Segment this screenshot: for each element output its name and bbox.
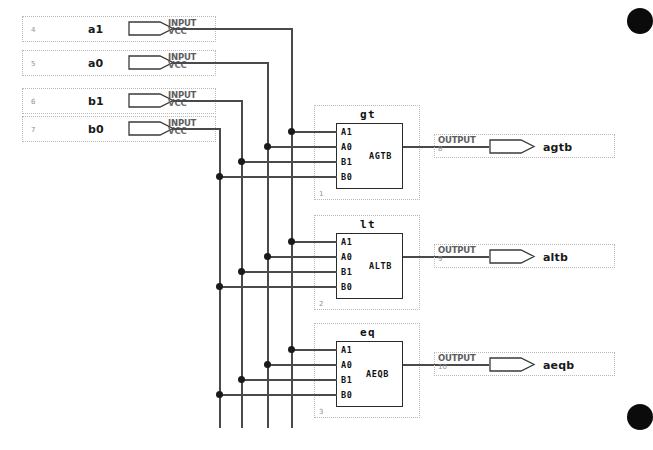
wire-gt-b0 — [219, 176, 337, 178]
edge-marker-bottom — [627, 404, 653, 430]
block-title-lt: lt — [360, 218, 376, 231]
block-port-gt-out: AGTB — [369, 151, 392, 161]
wire-lt-a0 — [267, 256, 337, 258]
block-instance-number-gt: 1 — [319, 190, 323, 198]
wire-eq-a0 — [267, 364, 337, 366]
block-port-gt-b1: B1 — [341, 157, 352, 167]
output-signal-label-altb: altb — [543, 251, 568, 264]
block-port-gt-a1: A1 — [341, 127, 352, 137]
output-pin-symbol-aeqb[interactable] — [489, 357, 535, 372]
output-pin-type-agtb: OUTPUT — [438, 136, 476, 145]
block-port-eq-out: AEQB — [366, 369, 389, 379]
junction-gt-b0 — [216, 173, 223, 180]
input-pin-number-a1: 4 — [31, 26, 35, 34]
wire-lt-b1 — [241, 271, 337, 273]
wire-eq-b0 — [219, 394, 337, 396]
output-pin-symbol-agtb[interactable] — [489, 139, 535, 154]
block-port-lt-b1: B1 — [341, 267, 352, 277]
block-title-eq: eq — [360, 326, 376, 339]
block-port-gt-b0: B0 — [341, 172, 352, 182]
bus-column-a0 — [267, 62, 269, 428]
block-port-eq-b1: B1 — [341, 375, 352, 385]
wire-a0-feed — [172, 62, 268, 64]
junction-lt-a0 — [264, 253, 271, 260]
output-signal-label-agtb: agtb — [543, 141, 572, 154]
wire-eq-b1 — [241, 379, 337, 381]
block-instance-number-eq: 3 — [319, 408, 323, 416]
wire-a1-feed — [172, 28, 292, 30]
wire-eq-a1 — [291, 349, 337, 351]
block-instance-number-lt: 2 — [319, 300, 323, 308]
input-pin-number-b1: 6 — [31, 98, 35, 106]
junction-lt-b1 — [238, 268, 245, 275]
input-signal-label-b0: b0 — [88, 123, 104, 136]
junction-eq-b0 — [216, 391, 223, 398]
block-title-gt: gt — [360, 108, 376, 121]
block-port-lt-a0: A0 — [341, 252, 352, 262]
wire-lt-a1 — [291, 241, 337, 243]
input-pin-number-a0: 5 — [31, 60, 35, 68]
block-port-lt-out: ALTB — [369, 261, 392, 271]
wire-gt-a1 — [291, 131, 337, 133]
wire-b1-feed — [172, 100, 242, 102]
input-signal-label-a0: a0 — [88, 57, 103, 70]
output-pin-number-altb: 9 — [438, 255, 442, 263]
output-pin-number-agtb: 8 — [438, 145, 442, 153]
wire-gt-b1 — [241, 161, 337, 163]
junction-lt-b0 — [216, 283, 223, 290]
block-port-lt-a1: A1 — [341, 237, 352, 247]
junction-lt-a1 — [288, 238, 295, 245]
output-pin-number-aeqb: 10 — [438, 363, 447, 371]
wire-gt-a0 — [267, 146, 337, 148]
output-pin-type-altb: OUTPUT — [438, 246, 476, 255]
input-pin-number-b0: 7 — [31, 126, 35, 134]
block-port-eq-a0: A0 — [341, 360, 352, 370]
block-port-gt-a0: A0 — [341, 142, 352, 152]
output-signal-label-aeqb: aeqb — [543, 359, 574, 372]
input-signal-label-a1: a1 — [88, 23, 103, 36]
bus-column-a1 — [291, 28, 293, 428]
output-pin-type-aeqb: OUTPUT — [438, 354, 476, 363]
block-port-eq-b0: B0 — [341, 390, 352, 400]
junction-eq-a1 — [288, 346, 295, 353]
edge-marker-top — [627, 8, 653, 34]
block-port-lt-b0: B0 — [341, 282, 352, 292]
wire-b0-feed — [172, 128, 220, 130]
input-signal-label-b1: b1 — [88, 95, 104, 108]
wire-lt-b0 — [219, 286, 337, 288]
junction-eq-a0 — [264, 361, 271, 368]
junction-gt-b1 — [238, 158, 245, 165]
junction-gt-a0 — [264, 143, 271, 150]
junction-eq-b1 — [238, 376, 245, 383]
junction-gt-a1 — [288, 128, 295, 135]
block-port-eq-a1: A1 — [341, 345, 352, 355]
output-pin-symbol-altb[interactable] — [489, 249, 535, 264]
